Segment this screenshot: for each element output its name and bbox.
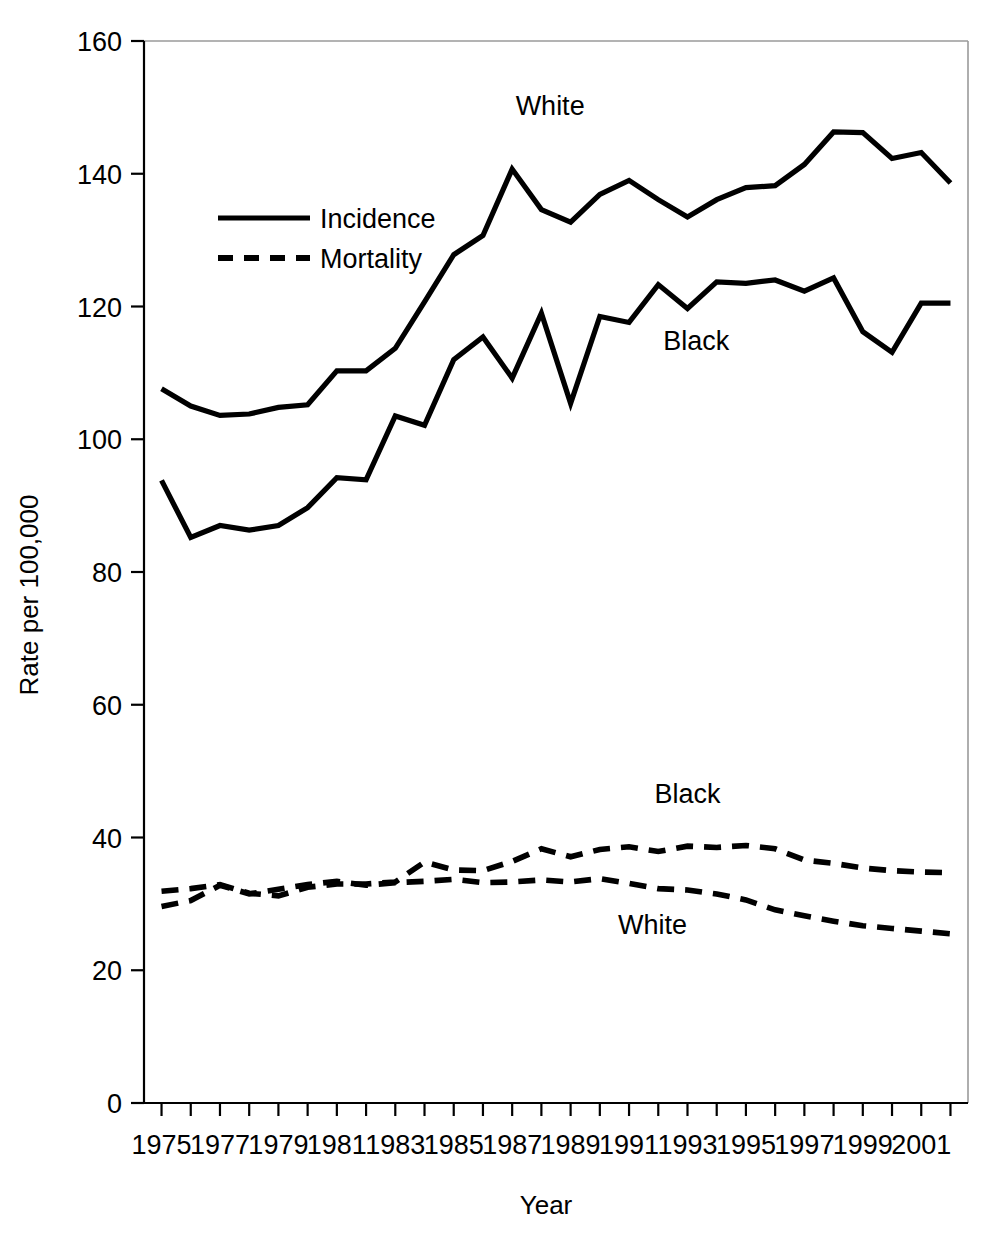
data-series-group [162,132,951,934]
x-tick-label: 1997 [774,1130,834,1160]
y-tick-label: 60 [92,691,122,721]
y-tick-label: 120 [77,293,122,323]
plot-frame [144,41,968,1103]
x-tick-label: 1981 [307,1130,367,1160]
line-chart: 020406080100120140160 197519771979198119… [0,0,996,1246]
y-axis-title: Rate per 100,000 [14,495,44,696]
series-annotation-label: White [516,91,585,121]
y-tick-label: 140 [77,160,122,190]
y-tick-label: 100 [77,425,122,455]
x-tick-label: 1977 [190,1130,250,1160]
x-tick-label: 1991 [599,1130,659,1160]
x-axis-title: Year [520,1190,573,1220]
series-line-white-mortality [162,879,951,934]
y-tick-label: 0 [107,1089,122,1119]
series-line-white-incidence [162,132,951,415]
chart-container: 020406080100120140160 197519771979198119… [0,0,996,1246]
x-tick-label: 1985 [424,1130,484,1160]
x-tick-label: 1999 [833,1130,893,1160]
x-axis-ticks: 1975197719791981198319851987198919911993… [131,1103,951,1160]
x-tick-label: 1993 [657,1130,717,1160]
series-annotation-label: Black [654,779,721,809]
x-tick-label: 1983 [365,1130,425,1160]
series-annotations: WhiteBlackBlackWhite [516,91,730,940]
x-tick-label: 1975 [131,1130,191,1160]
y-tick-label: 160 [77,27,122,57]
x-tick-label: 2001 [891,1130,951,1160]
legend-label-incidence: Incidence [320,204,436,234]
x-tick-label: 1995 [716,1130,776,1160]
series-annotation-label: Black [663,326,730,356]
y-tick-label: 80 [92,558,122,588]
legend-label-mortality: Mortality [320,244,423,274]
y-tick-label: 40 [92,824,122,854]
chart-legend: IncidenceMortality [218,204,436,274]
y-axis-ticks: 020406080100120140160 [77,27,144,1119]
series-annotation-label: White [618,910,687,940]
x-tick-label: 1979 [248,1130,308,1160]
x-tick-label: 1987 [482,1130,542,1160]
x-tick-label: 1989 [541,1130,601,1160]
y-tick-label: 20 [92,956,122,986]
